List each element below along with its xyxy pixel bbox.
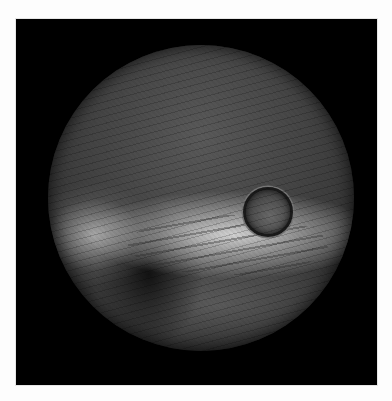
photo-frame xyxy=(16,19,377,385)
reflective-streaks xyxy=(128,215,328,275)
circular-photo xyxy=(48,45,354,351)
porthole xyxy=(243,187,293,237)
